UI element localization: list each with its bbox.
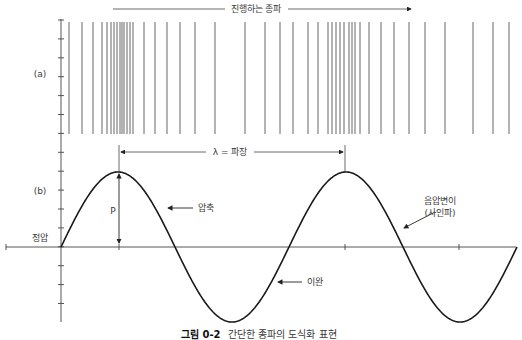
amplitude-label: P bbox=[110, 206, 116, 216]
panel-b-label: (b) bbox=[34, 186, 47, 196]
compression-label: 압축 bbox=[198, 202, 214, 213]
rarefaction-label: 이완 bbox=[307, 277, 323, 287]
rarefaction-pointer: 이완 bbox=[278, 277, 323, 287]
caption-text: 간단한 종파의 도식화 표현 bbox=[228, 329, 337, 340]
baseline-label: 정압 bbox=[32, 232, 48, 243]
panel-a-label: (a) bbox=[34, 69, 47, 79]
figure-caption: 그림 0-2 간단한 종파의 도식화 표현 bbox=[181, 329, 337, 340]
pressure-label-line1: 음압변이 bbox=[424, 195, 456, 206]
wavelength-label: λ = 파장 bbox=[213, 147, 248, 157]
baseline-axis bbox=[6, 244, 516, 250]
travel-direction-arrow: 진행하는 종파 bbox=[113, 3, 411, 14]
pressure-variation-pointer: 음압변이 (사인파) bbox=[404, 195, 456, 228]
amplitude-indicator: P bbox=[110, 174, 119, 243]
wavelength-indicator: λ = 파장 bbox=[119, 145, 345, 172]
vertical-axis bbox=[58, 19, 64, 322]
caption-prefix: 그림 0-2 bbox=[181, 329, 221, 340]
pressure-label-line2: (사인파) bbox=[424, 208, 455, 218]
travel-label: 진행하는 종파 bbox=[231, 3, 283, 14]
compression-pointer: 압축 bbox=[168, 202, 214, 213]
longitudinal-wave-diagram: 진행하는 종파 (a) (b) λ = 파장 정압 P 압축 bbox=[0, 0, 522, 340]
compression-lines bbox=[69, 22, 509, 134]
